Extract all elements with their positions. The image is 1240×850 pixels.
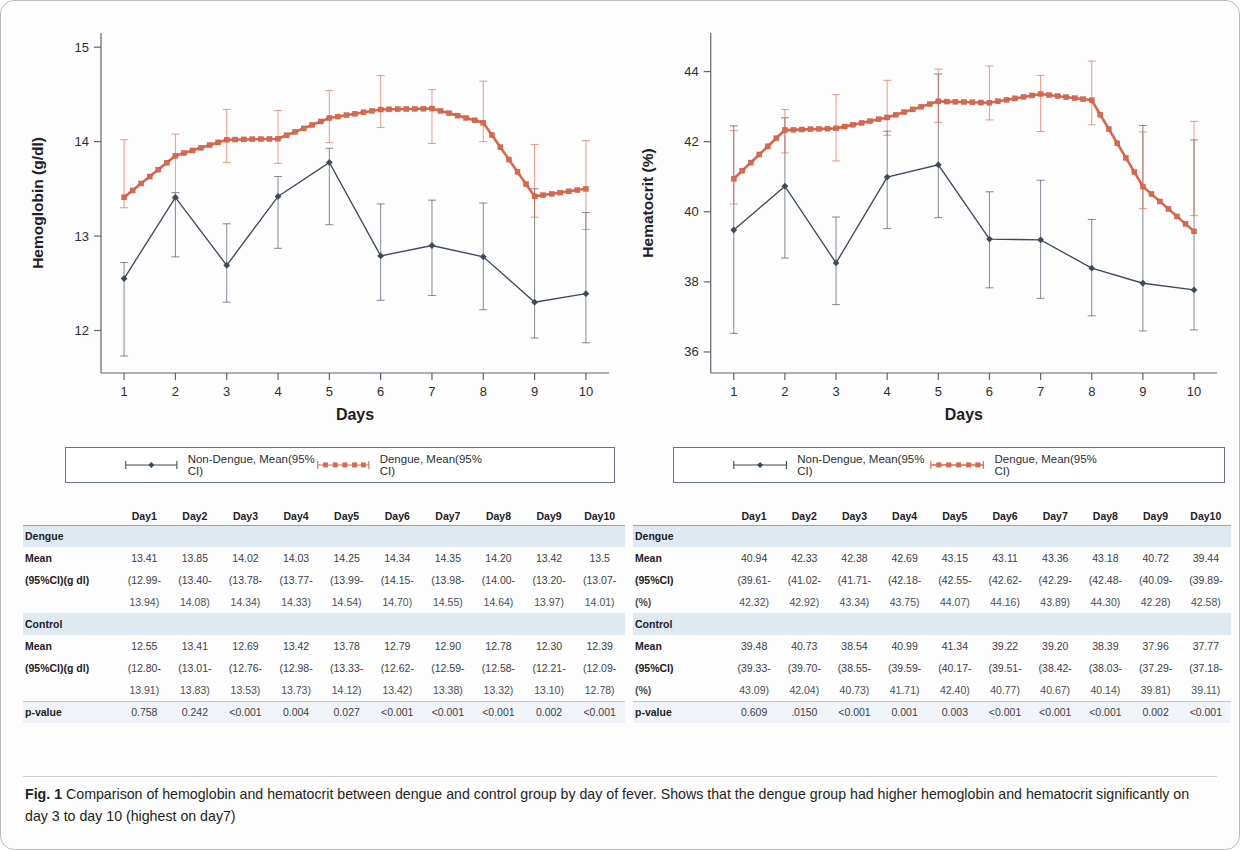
y-axis-label: Hematocrit (%) — [639, 148, 656, 257]
hemoglobin-table: Day1Day2Day3Day4Day5Day6Day7Day8Day9Day1… — [23, 501, 625, 723]
table-cell: <0.001 — [220, 701, 271, 723]
y-tick-label: 40 — [684, 204, 698, 219]
row-label: (95%CI) — [633, 657, 729, 679]
table-cell: <0.001 — [1080, 701, 1130, 723]
dengue-line-symbol-icon — [929, 459, 985, 471]
series-markers — [731, 91, 1196, 233]
x-axis-label: Days — [336, 406, 374, 423]
row-label: (%) — [633, 679, 729, 701]
table-cell: 37.96 — [1131, 635, 1181, 657]
table-cell: 43.11 — [980, 547, 1030, 569]
data-table: Day1Day2Day3Day4Day5Day6Day7Day8Day9Day1… — [23, 501, 625, 723]
legend-label-non-dengue: Non-Dengue, Mean(95% CI) — [188, 453, 316, 477]
table-cell: (13.99- — [321, 569, 372, 591]
column-header-day7: Day7 — [1030, 501, 1080, 525]
table-row: (95%CI)(39.33-(39.70-(38.55-(39.59-(40.1… — [633, 657, 1231, 679]
legend-item-dengue: Dengue, Mean(95% CI) — [929, 453, 1104, 477]
table-cell: (12.99- — [119, 569, 170, 591]
table-cell: 0.003 — [930, 701, 980, 723]
table-cell: 12.78) — [574, 679, 625, 701]
y-tick-label: 42 — [684, 134, 698, 149]
table-cell — [321, 613, 372, 635]
table-cell — [170, 613, 221, 635]
table-cell: 42.32) — [729, 591, 779, 613]
table-row: Mean13.4113.8514.0214.0314.2514.3414.351… — [23, 547, 625, 569]
table-cell: 40.67) — [1030, 679, 1080, 701]
table-cell — [779, 613, 829, 635]
table-cell: 0.002 — [524, 701, 575, 723]
table-cell: 0.027 — [321, 701, 372, 723]
table-cell: .0150 — [779, 701, 829, 723]
table-cell: (42.48- — [1080, 569, 1130, 591]
legend-item-dengue: Dengue, Mean(95% CI) — [316, 453, 486, 477]
series-line-dengue — [734, 94, 1194, 231]
table-cell: 43.89) — [1030, 591, 1080, 613]
series-markers — [121, 159, 590, 306]
column-header-day3: Day3 — [220, 501, 271, 525]
x-tick-label: 3 — [832, 384, 839, 399]
table-cell — [779, 525, 829, 547]
caption-text: Comparison of hemoglobin and hematocrit … — [25, 786, 1189, 824]
table-cell: (13.40- — [170, 569, 221, 591]
table-cell — [829, 613, 879, 635]
column-header-day3: Day3 — [829, 501, 879, 525]
table-cell: 42.28) — [1131, 591, 1181, 613]
table-cell — [119, 613, 170, 635]
table-row: Mean12.5513.4112.6913.4213.7812.7912.901… — [23, 635, 625, 657]
table-cell: 0.001 — [880, 701, 930, 723]
table-cell: <0.001 — [473, 701, 524, 723]
table-cell: 42.58) — [1181, 591, 1231, 613]
table-cell: (39.70- — [779, 657, 829, 679]
table-header-row: Day1Day2Day3Day4Day5Day6Day7Day8Day9Day1… — [23, 501, 625, 525]
row-label: (95%CI)(g dl) — [23, 569, 119, 591]
table-cell: (14.00- — [473, 569, 524, 591]
table-cell — [423, 613, 474, 635]
legend-label-non-dengue: Non-Dengue, Mean(95% CI) — [797, 453, 929, 477]
y-tick-label: 12 — [75, 323, 89, 338]
row-label: Dengue — [23, 525, 119, 547]
column-header-day5: Day5 — [321, 501, 372, 525]
table-cell: (12.98- — [271, 657, 322, 679]
table-cell: 13.42) — [372, 679, 423, 701]
table-cell: (12.09- — [574, 657, 625, 679]
table-cell: 0.004 — [271, 701, 322, 723]
table-cell: 39.44 — [1181, 547, 1231, 569]
table-cell: 44.30) — [1080, 591, 1130, 613]
row-label — [23, 679, 119, 701]
table-cell — [423, 525, 474, 547]
table-cell — [1181, 613, 1231, 635]
series-error-bars — [730, 74, 1198, 333]
hematocrit-legend: Non-Dengue, Mean(95% CI) Dengue, Mean(95… — [673, 447, 1225, 483]
table-cell: 40.73 — [779, 635, 829, 657]
table-cell: 0.242 — [170, 701, 221, 723]
y-tick-label: 44 — [684, 64, 698, 79]
table-cell — [170, 525, 221, 547]
x-tick-label: 7 — [1037, 384, 1044, 399]
table-cell: (13.07- — [574, 569, 625, 591]
row-label: Mean — [23, 635, 119, 657]
table-cell: 39.22 — [980, 635, 1030, 657]
table-row: Control — [23, 613, 625, 635]
legend-item-non-dengue: Non-Dengue, Mean(95% CI) — [124, 453, 316, 477]
y-tick-label: 15 — [75, 40, 89, 55]
table-cell: <0.001 — [1181, 701, 1231, 723]
row-label: Control — [23, 613, 119, 635]
column-header-day9: Day9 — [1131, 501, 1181, 525]
x-tick-label: 4 — [884, 384, 891, 399]
table-row: (%)42.32)42.92)43.34)43.75)44.07)44.16)4… — [633, 591, 1231, 613]
table-cell: 39.20 — [1030, 635, 1080, 657]
row-label: p-value — [633, 701, 729, 723]
row-label: (95%CI) — [633, 569, 729, 591]
table-cell: (39.51- — [980, 657, 1030, 679]
table-cell: <0.001 — [1030, 701, 1080, 723]
x-tick-label: 6 — [377, 384, 384, 399]
table-cell: 37.77 — [1181, 635, 1231, 657]
row-label: Mean — [23, 547, 119, 569]
table-corner-cell — [23, 501, 119, 525]
table-cell — [880, 525, 930, 547]
x-tick-label: 10 — [579, 384, 593, 399]
table-row: (95%CI)(g dl)(12.80-(13.01-(12.76-(12.98… — [23, 657, 625, 679]
x-tick-label: 8 — [480, 384, 487, 399]
table-cell: 40.99 — [880, 635, 930, 657]
column-header-day10: Day10 — [574, 501, 625, 525]
